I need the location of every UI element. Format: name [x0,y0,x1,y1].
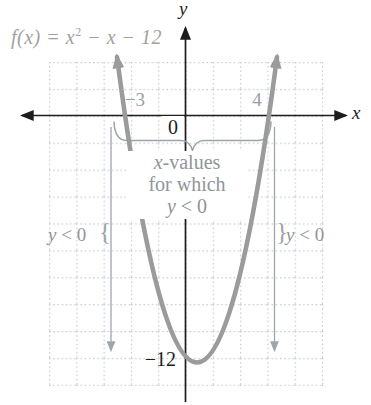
origin-label: 0 [162,116,184,139]
annotation-y-var: y [167,195,176,217]
left-intercept-label: −3 [118,89,152,111]
annotation-line3-rest: < 0 [176,195,207,217]
equation-f-part: f(x) = x [11,26,75,48]
right-region-rest: < 0 [294,224,324,245]
annotation-line-2: for which [127,173,247,195]
right-region-label: y < 0 [286,224,324,246]
parabola-figure: f(x) = x2 − x − 12 y x 0 −3 4 x-values f… [0,0,371,405]
function-equation-label: f(x) = x2 − x − 12 [11,25,162,49]
left-region-label: y < 0 [48,224,86,246]
left-region-rest: < 0 [56,224,86,245]
equation-tail: − x − 12 [82,26,162,48]
left-brace-pointer: { [99,219,111,244]
center-annotation: x-values for which y < 0 [126,151,248,219]
annotation-x-var: x [154,151,163,173]
x-axis-label: x [352,102,360,124]
annotation-line-3: y < 0 [127,195,247,217]
minimum-value-label: −12 [134,348,176,371]
right-intercept-label: 4 [242,89,272,111]
annotation-line1-rest: -values [163,151,221,173]
y-axis-label: y [179,0,187,20]
annotation-line-1: x-values [127,151,247,173]
